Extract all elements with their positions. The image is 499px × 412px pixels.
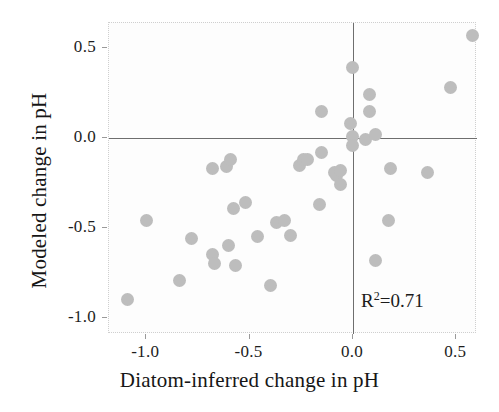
data-point (369, 128, 382, 141)
y-tick-mark (102, 227, 107, 228)
data-point (301, 153, 314, 166)
data-point (313, 198, 326, 211)
data-point (239, 196, 252, 209)
data-point (363, 88, 376, 101)
plot-area (108, 22, 476, 333)
x-tick-mark (145, 334, 146, 339)
data-point (284, 229, 297, 242)
data-point (208, 257, 221, 270)
y-tick-mark (102, 47, 107, 48)
data-point (315, 105, 328, 118)
data-point (363, 105, 376, 118)
data-point (346, 61, 359, 74)
data-point (173, 274, 186, 287)
data-point (140, 214, 153, 227)
x-tick-mark (249, 334, 250, 339)
r-squared-prefix: R (361, 290, 374, 311)
x-axis-title: Diatom-inferred change in pH (0, 368, 499, 393)
data-point (382, 214, 395, 227)
r-squared-exponent: 2 (374, 289, 380, 303)
data-point (346, 139, 359, 152)
data-point (384, 162, 397, 175)
data-point (466, 29, 479, 42)
data-points-layer (109, 23, 475, 332)
data-point (264, 279, 277, 292)
scatter-plot-figure: -1.0-0.50.00.5 0.50.0-0.5-1.0 Diatom-inf… (0, 0, 499, 412)
x-tick-mark (352, 334, 353, 339)
data-point (334, 178, 347, 191)
data-point (278, 214, 291, 227)
data-point (315, 146, 328, 159)
x-tick-label: 0.5 (444, 342, 466, 362)
data-point (344, 117, 357, 130)
data-point (227, 202, 240, 215)
x-tick-mark (455, 334, 456, 339)
data-point (121, 293, 134, 306)
data-point (206, 162, 219, 175)
x-tick-label: -1.0 (131, 342, 159, 362)
x-tick-label: 0.0 (341, 342, 363, 362)
data-point (229, 259, 242, 272)
y-tick-mark (102, 317, 107, 318)
data-point (369, 254, 382, 267)
data-point (224, 153, 237, 166)
data-point (222, 239, 235, 252)
x-tick-label: -0.5 (235, 342, 263, 362)
data-point (334, 164, 347, 177)
r-squared-suffix: =0.71 (380, 290, 424, 311)
y-tick-mark (102, 137, 107, 138)
data-point (251, 230, 264, 243)
data-point (421, 166, 434, 179)
data-point (185, 232, 198, 245)
data-point (444, 81, 457, 94)
r-squared-annotation: R2=0.71 (361, 289, 424, 312)
y-axis-title: Modeled change in pH (27, 46, 52, 336)
